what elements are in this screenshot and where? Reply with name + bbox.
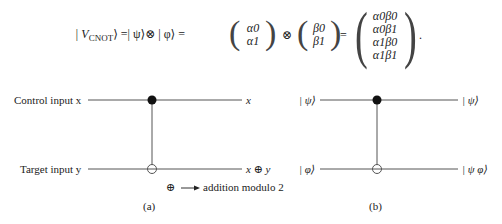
caption-a: (a) — [143, 201, 155, 212]
control-input-label: Control input x — [14, 95, 81, 106]
control-output-label: x — [246, 95, 251, 106]
legend-text: addition modulo 2 — [203, 182, 284, 193]
control-dot-b — [373, 96, 382, 105]
circuit-b-wires — [320, 96, 458, 174]
target-output-ket: | ψ φ⟩ — [462, 164, 488, 175]
target-input-label: Target input y — [20, 164, 81, 175]
legend-xor-symbol: ⊕ — [166, 182, 175, 193]
target-output-label: x ⊕ y — [246, 164, 270, 175]
circuit-a-wires — [88, 96, 242, 174]
caption-b: (b) — [369, 201, 382, 212]
control-input-ket: | ψ⟩ — [299, 95, 316, 106]
target-input-ket: | φ⟩ — [299, 164, 315, 175]
control-output-ket: | ψ⟩ — [462, 95, 479, 106]
control-dot-a — [148, 96, 157, 105]
